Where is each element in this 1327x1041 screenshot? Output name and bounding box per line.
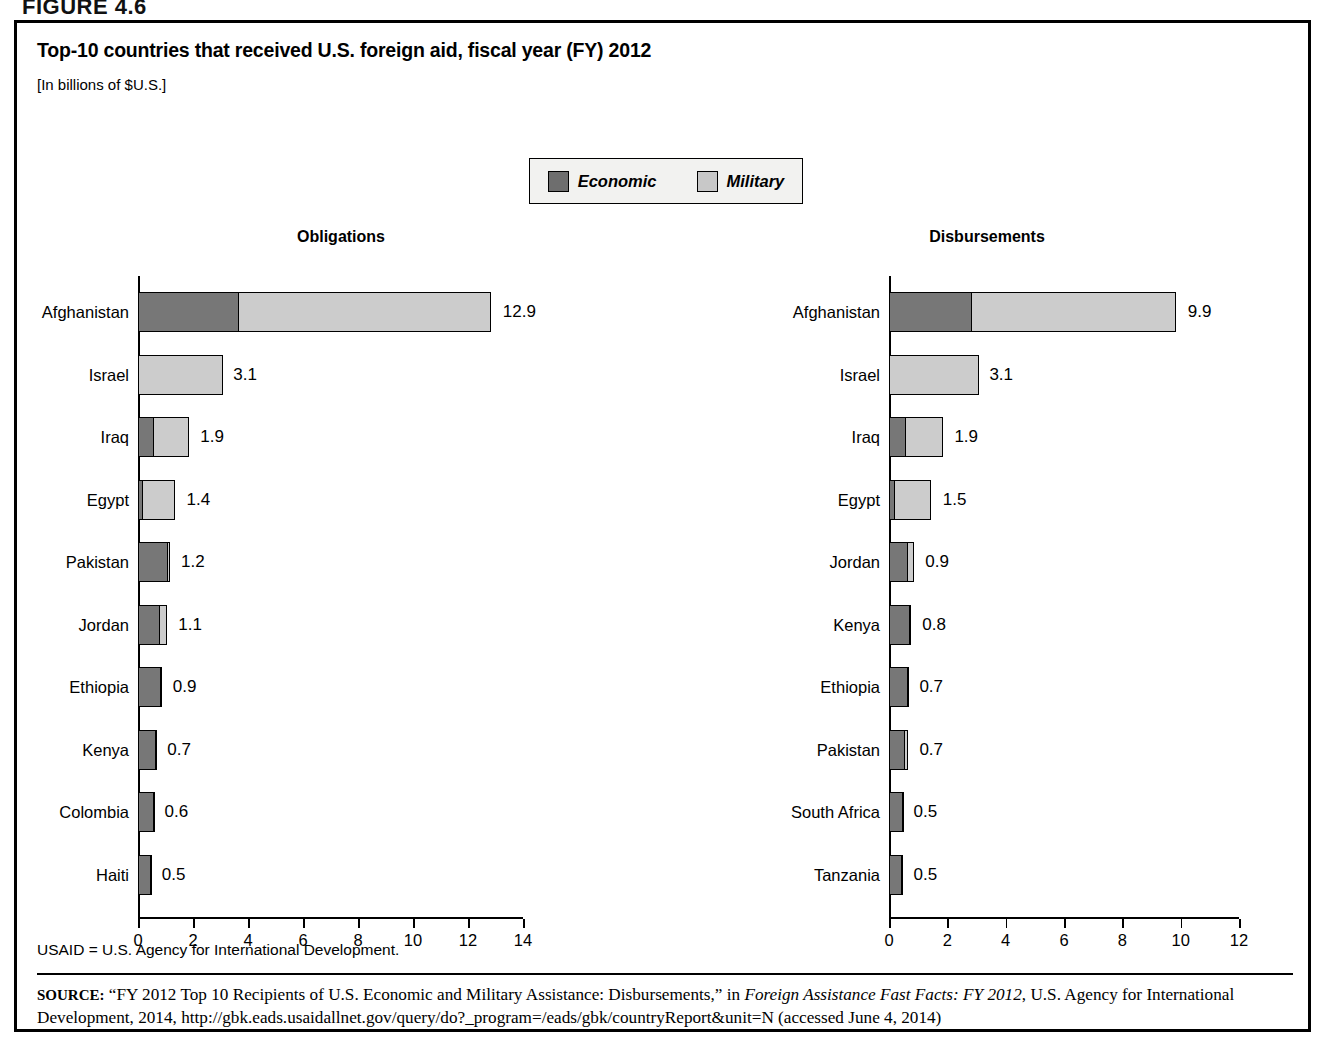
bar-row: Iraq1.9 xyxy=(677,417,1297,457)
bar-segment-economic[interactable] xyxy=(138,417,155,457)
panel-title-disbursements: Disbursements xyxy=(677,228,1297,246)
source-italic-title: Foreign Assistance Fast Facts: FY 2012 xyxy=(744,985,1021,1004)
bar-segment-military[interactable] xyxy=(150,855,152,895)
bar-segment-military[interactable] xyxy=(159,605,167,645)
bar-segment-military[interactable] xyxy=(907,667,909,707)
stacked-bar[interactable] xyxy=(889,855,902,895)
axis-tick xyxy=(248,919,250,928)
bar-row: Pakistan0.7 xyxy=(677,730,1297,770)
stacked-bar[interactable] xyxy=(889,730,907,770)
bar-value-label: 1.2 xyxy=(181,552,205,572)
stacked-bar[interactable] xyxy=(138,417,187,457)
stacked-bar[interactable] xyxy=(138,355,222,395)
stacked-bar[interactable] xyxy=(889,542,912,582)
axis-tick-label: 2 xyxy=(927,931,967,950)
legend-label-military: Military xyxy=(727,172,785,191)
bar-row: South Africa0.5 xyxy=(677,792,1297,832)
stacked-bar[interactable] xyxy=(889,480,930,520)
category-label: Pakistan xyxy=(31,553,129,572)
category-label: Ethiopia xyxy=(31,678,129,697)
bar-segment-military[interactable] xyxy=(153,792,155,832)
bar-segment-military[interactable] xyxy=(238,292,491,332)
bar-value-label: 0.6 xyxy=(165,802,189,822)
bar-segment-military[interactable] xyxy=(909,605,911,645)
bar-segment-economic[interactable] xyxy=(138,792,154,832)
bar-segment-economic[interactable] xyxy=(889,605,911,645)
bar-value-label: 0.5 xyxy=(162,865,186,885)
bar-row: Kenya0.7 xyxy=(31,730,651,770)
bar-row: Israel3.1 xyxy=(31,355,651,395)
stacked-bar[interactable] xyxy=(138,730,156,770)
bar-segment-military[interactable] xyxy=(907,542,914,582)
bar-segment-economic[interactable] xyxy=(889,667,909,707)
axis-tick xyxy=(1181,919,1183,928)
footnote-usaid: USAID = U.S. Agency for International De… xyxy=(37,941,399,959)
bar-value-label: 1.9 xyxy=(200,427,224,447)
legend-label-economic: Economic xyxy=(578,172,657,191)
axis-tick-label: 0 xyxy=(869,931,909,950)
stacked-bar[interactable] xyxy=(889,355,978,395)
bar-segment-economic[interactable] xyxy=(138,292,240,332)
stacked-bar[interactable] xyxy=(138,855,150,895)
category-label: Ethiopia xyxy=(677,678,880,697)
bar-segment-military[interactable] xyxy=(904,730,908,770)
bar-segment-economic[interactable] xyxy=(889,417,907,457)
axis-tick xyxy=(303,919,305,928)
category-label: Iraq xyxy=(677,428,880,447)
category-label: Israel xyxy=(677,365,880,384)
bar-segment-military[interactable] xyxy=(167,542,170,582)
bar-segment-military[interactable] xyxy=(155,730,157,770)
bar-segment-military[interactable] xyxy=(901,855,903,895)
bar-value-label: 3.1 xyxy=(989,365,1013,385)
bar-segment-economic[interactable] xyxy=(138,730,157,770)
chart-panel-disbursements: Disbursements 024681012Afghanistan9.9Isr… xyxy=(677,228,1297,928)
axis-tick xyxy=(413,919,415,928)
bar-segment-economic[interactable] xyxy=(889,730,905,770)
stacked-bar[interactable] xyxy=(138,292,490,332)
plot-area-obligations: 02468101214Afghanistan12.9Israel3.1Iraq1… xyxy=(31,266,651,928)
bar-segment-military[interactable] xyxy=(894,480,931,520)
stacked-bar[interactable] xyxy=(138,667,161,707)
axis-tick-label: 14 xyxy=(503,931,543,950)
divider xyxy=(37,973,1293,975)
bar-value-label: 0.9 xyxy=(173,677,197,697)
bar-row: Haiti0.5 xyxy=(31,855,651,895)
category-label: Haiti xyxy=(31,865,129,884)
stacked-bar[interactable] xyxy=(889,292,1175,332)
stacked-bar[interactable] xyxy=(889,605,910,645)
units-note: [In billions of $U.S.] xyxy=(37,76,166,93)
bar-segment-economic[interactable] xyxy=(138,667,161,707)
bar-row: Tanzania0.5 xyxy=(677,855,1297,895)
stacked-bar[interactable] xyxy=(889,417,942,457)
bar-segment-military[interactable] xyxy=(138,355,223,395)
legend-item-economic: Economic xyxy=(548,171,657,192)
bar-segment-military[interactable] xyxy=(142,480,175,520)
category-label: Afghanistan xyxy=(31,303,129,322)
bar-segment-military[interactable] xyxy=(902,792,904,832)
stacked-bar[interactable] xyxy=(138,542,168,582)
axis-tick xyxy=(138,919,140,928)
bar-segment-military[interactable] xyxy=(905,417,943,457)
bar-segment-economic[interactable] xyxy=(138,542,168,582)
category-label: Colombia xyxy=(31,803,129,822)
bar-row: Afghanistan12.9 xyxy=(31,292,651,332)
bar-value-label: 12.9 xyxy=(503,302,536,322)
bar-segment-economic[interactable] xyxy=(138,605,160,645)
axis-tick-label: 8 xyxy=(1102,931,1142,950)
bar-segment-military[interactable] xyxy=(889,355,979,395)
bar-value-label: 0.8 xyxy=(922,615,946,635)
stacked-bar[interactable] xyxy=(889,667,908,707)
stacked-bar[interactable] xyxy=(138,605,165,645)
bar-row: Kenya0.8 xyxy=(677,605,1297,645)
bar-segment-military[interactable] xyxy=(153,417,189,457)
stacked-bar[interactable] xyxy=(889,792,902,832)
stacked-bar[interactable] xyxy=(138,480,174,520)
bar-segment-economic[interactable] xyxy=(889,292,972,332)
source-kicker: SOURCE: xyxy=(37,987,105,1003)
bar-segment-economic[interactable] xyxy=(889,542,908,582)
stacked-bar[interactable] xyxy=(138,792,153,832)
bar-row: Egypt1.4 xyxy=(31,480,651,520)
axis-tick xyxy=(947,919,949,928)
bar-segment-military[interactable] xyxy=(971,292,1177,332)
bar-segment-military[interactable] xyxy=(160,667,162,707)
